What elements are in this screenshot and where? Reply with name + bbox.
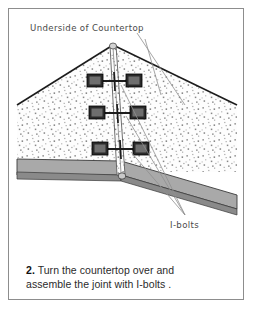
caption-line-1: Turn the countertop over and [38, 264, 174, 276]
countertop-illustration: Underside of Countertop I-bolts [9, 9, 243, 257]
figure-caption: 2. Turn the countertop over and assemble… [26, 264, 232, 291]
figure-root: Underside of Countertop I-bolts 2. Turn … [0, 0, 254, 310]
label-ibolts: I-bolts [170, 220, 199, 230]
step-number: 2. [26, 264, 35, 276]
caption-line-2: assemble the joint with I-bolts . [26, 278, 171, 290]
label-underside-of-countertop: Underside of Countertop [30, 23, 144, 33]
